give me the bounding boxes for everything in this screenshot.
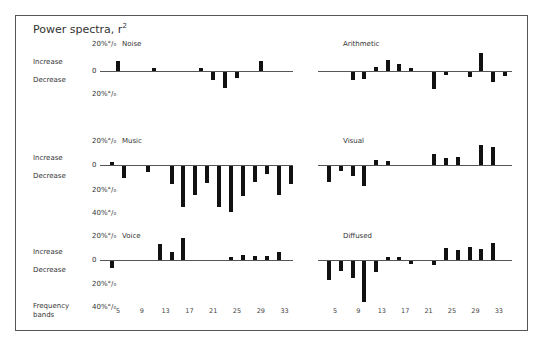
y-label-0-row2: 0 xyxy=(92,161,96,169)
x-tick-label: 9 xyxy=(140,307,144,315)
x-tick-label: 21 xyxy=(424,307,432,315)
bar xyxy=(456,157,460,165)
x-tick-label: 5 xyxy=(333,307,337,315)
y-label-20-neg-row2: 20%°/₀ xyxy=(92,186,116,194)
bar xyxy=(217,166,221,207)
baseline-noise xyxy=(100,71,293,72)
bar xyxy=(362,261,366,302)
baseline-voice xyxy=(100,260,293,261)
x-tick-label: 9 xyxy=(356,307,360,315)
bar xyxy=(253,256,257,260)
bar xyxy=(491,243,495,260)
bar xyxy=(397,257,401,260)
bar xyxy=(199,68,203,71)
bar xyxy=(339,261,343,271)
bands-label: bands xyxy=(33,311,54,319)
x-tick-label: 5 xyxy=(116,307,120,315)
bar xyxy=(362,72,366,79)
bar xyxy=(386,257,390,260)
x-tick-label: 33 xyxy=(495,307,503,315)
y-label-20-neg-row3: 20%°/₀ xyxy=(92,280,116,288)
increase-label-row1: Increase xyxy=(33,58,63,66)
bar xyxy=(170,252,174,260)
x-tick-label: 25 xyxy=(448,307,456,315)
bar xyxy=(253,166,257,182)
bar xyxy=(229,166,233,212)
x-tick-label: 33 xyxy=(280,307,288,315)
bar xyxy=(503,72,507,76)
panel-title-arithmetic: Arithmetic xyxy=(343,40,379,48)
bar xyxy=(374,160,378,165)
x-tick-label: 21 xyxy=(209,307,217,315)
bar xyxy=(409,68,413,71)
frequency-label: Frequency xyxy=(33,302,69,310)
bar xyxy=(444,72,448,75)
bar xyxy=(265,256,269,260)
y-label-20-row1: 20%°/₀ xyxy=(92,40,116,48)
panel-title-visual: Visual xyxy=(343,137,364,145)
bar xyxy=(479,53,483,71)
panel-title-diffused: Diffused xyxy=(343,232,372,240)
bar xyxy=(432,154,436,165)
bar xyxy=(409,261,413,264)
bar xyxy=(122,166,126,178)
x-tick-label: 17 xyxy=(185,307,193,315)
bar xyxy=(181,166,185,207)
bar xyxy=(468,247,472,260)
bar xyxy=(456,250,460,260)
bar xyxy=(362,166,366,186)
bar xyxy=(211,72,215,80)
increase-label-row2: Increase xyxy=(33,154,63,162)
bar xyxy=(351,166,355,176)
bar xyxy=(491,147,495,165)
bar xyxy=(374,261,378,272)
bar xyxy=(205,166,209,183)
bar xyxy=(110,162,114,165)
increase-label-row3: Increase xyxy=(33,248,63,256)
bar xyxy=(386,60,390,71)
bar xyxy=(432,72,436,89)
bar xyxy=(479,145,483,165)
y-label-0-row3: 0 xyxy=(92,256,96,264)
figure-title: Power spectra, r2 xyxy=(33,22,127,36)
bar xyxy=(339,166,343,171)
y-label-20-row3: 20%°/₀ xyxy=(92,232,116,240)
bar xyxy=(110,261,114,268)
bar xyxy=(116,61,120,71)
decrease-label-row2: Decrease xyxy=(33,172,66,180)
x-tick-label: 17 xyxy=(401,307,409,315)
bar xyxy=(468,72,472,77)
bar xyxy=(397,64,401,71)
bar xyxy=(223,72,227,88)
bar xyxy=(386,161,390,165)
panel-title-voice: Voice xyxy=(122,232,141,240)
x-tick-label: 25 xyxy=(233,307,241,315)
bar xyxy=(327,261,331,280)
bar xyxy=(277,252,281,260)
bar xyxy=(193,166,197,195)
decrease-label-row3: Decrease xyxy=(33,266,66,274)
bar xyxy=(327,166,331,182)
bar xyxy=(181,238,185,260)
x-tick-label: 29 xyxy=(471,307,479,315)
panel-title-noise: Noise xyxy=(122,40,141,48)
bar xyxy=(479,249,483,260)
y-label-0-row1: 0 xyxy=(92,67,96,75)
y-label-40-neg-row3: 40%°/₀ xyxy=(92,303,116,311)
bar xyxy=(265,166,269,174)
bar xyxy=(235,72,239,78)
bar xyxy=(491,72,495,82)
bar xyxy=(158,244,162,260)
baseline-diffused xyxy=(318,260,512,261)
baseline-visual xyxy=(318,165,512,166)
bar xyxy=(289,166,293,184)
y-label-20-neg-row1: 20%°/₀ xyxy=(92,90,116,98)
bar xyxy=(432,261,436,265)
bar xyxy=(351,72,355,80)
y-label-20-row2: 20%°/₀ xyxy=(92,137,116,145)
bar xyxy=(241,255,245,260)
decrease-label-row1: Decrease xyxy=(33,76,66,84)
panel-title-music: Music xyxy=(122,137,142,145)
bar xyxy=(152,68,156,71)
title-superscript: 2 xyxy=(122,22,126,30)
